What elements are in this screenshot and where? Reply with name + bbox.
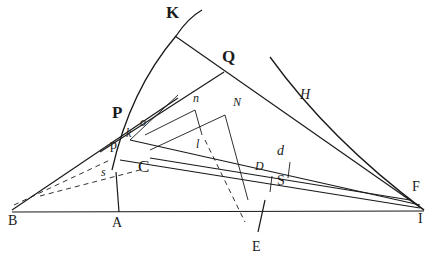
label-H: H — [300, 88, 310, 102]
line-to-E-2 — [258, 200, 265, 232]
line-n-down — [195, 110, 202, 135]
line-k-apex — [130, 95, 178, 140]
label-o: o — [140, 116, 146, 128]
label-k: k — [126, 127, 131, 139]
label-D: D — [255, 160, 264, 172]
label-B: B — [8, 214, 17, 228]
perpendicular-A — [116, 172, 119, 212]
line-KF — [175, 36, 424, 210]
line-to-E-1 — [205, 140, 245, 222]
label-s: s — [101, 166, 106, 178]
label-N: N — [233, 96, 241, 108]
line-o-n — [145, 110, 195, 135]
label-l: l — [196, 138, 199, 150]
label-n: n — [193, 92, 199, 104]
label-F: F — [412, 180, 420, 194]
label-K: K — [166, 4, 179, 21]
label-C: C — [138, 158, 149, 175]
label-Q: Q — [222, 48, 235, 65]
curve-H — [270, 57, 424, 210]
label-I: I — [418, 212, 423, 226]
label-P: P — [112, 104, 122, 121]
label-S: S — [277, 174, 285, 188]
label-d: d — [277, 144, 284, 158]
line-o-N — [150, 115, 225, 150]
line-N-E — [225, 115, 248, 200]
line-B-dashed-2 — [40, 170, 140, 196]
label-E: E — [252, 240, 261, 254]
line-B-up — [12, 98, 178, 210]
label-A: A — [112, 216, 122, 230]
line-p-F — [120, 160, 420, 208]
baseline-BI — [12, 211, 424, 212]
geometry-figure — [0, 0, 431, 265]
label-p: p — [110, 138, 117, 152]
